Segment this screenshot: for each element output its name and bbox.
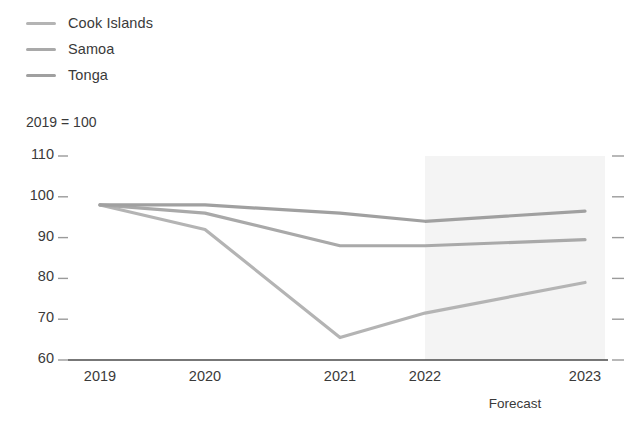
- x-axis-tick-label: 2022: [409, 368, 441, 384]
- y-axis-tick-label: 60: [10, 350, 54, 366]
- forecast-band: [425, 156, 605, 360]
- forecast-label: Forecast: [489, 396, 542, 411]
- x-axis-tick-label: 2020: [189, 368, 221, 384]
- y-axis-tick-label: 90: [10, 228, 54, 244]
- y-axis-tick-label: 100: [10, 187, 54, 203]
- x-axis-tick-label: 2023: [569, 368, 601, 384]
- x-axis-tick-label: 2019: [84, 368, 116, 384]
- y-axis-tick-label: 110: [10, 146, 54, 162]
- y-axis-tick-label: 70: [10, 309, 54, 325]
- x-axis-tick-label: 2021: [324, 368, 356, 384]
- chart-container: Cook Islands Samoa Tonga 2019 = 100 1101…: [0, 0, 642, 432]
- y-axis-tick-label: 80: [10, 268, 54, 284]
